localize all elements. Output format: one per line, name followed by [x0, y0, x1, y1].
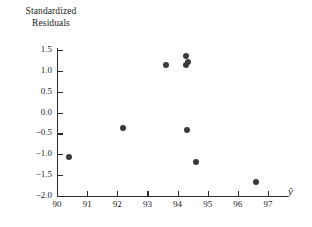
- y-tick-mark: [58, 113, 63, 114]
- y-axis-title-line1: Standardized: [26, 6, 77, 16]
- y-axis-title-line2: Residuals: [8, 18, 94, 30]
- x-tick-mark: [87, 191, 88, 196]
- x-tick-label: 90: [45, 199, 69, 209]
- y-tick-label: 0.5: [22, 86, 52, 96]
- x-tick-mark: [117, 191, 118, 196]
- y-tick-label: 1.0: [22, 65, 52, 75]
- y-tick-label: −0.5: [22, 127, 52, 137]
- data-point: [120, 125, 126, 131]
- data-point: [183, 62, 189, 68]
- x-axis-line: [57, 196, 288, 197]
- x-tick-mark: [268, 191, 269, 196]
- y-tick-label: 1.5: [22, 44, 52, 54]
- y-tick-mark: [58, 92, 63, 93]
- x-tick-mark: [208, 191, 209, 196]
- y-tick-label: 0.0: [22, 107, 52, 117]
- x-axis-title: ŷ: [288, 186, 293, 198]
- x-tick-label: 96: [226, 199, 250, 209]
- x-tick-mark: [147, 191, 148, 196]
- y-tick-label: −1.5: [22, 169, 52, 179]
- x-tick-label: 97: [256, 199, 280, 209]
- y-axis-title: Standardized Residuals: [8, 6, 94, 29]
- x-tick-mark: [238, 191, 239, 196]
- y-tick-mark: [58, 175, 63, 176]
- x-tick-mark: [178, 191, 179, 196]
- y-tick-mark: [58, 154, 63, 155]
- data-point: [184, 127, 190, 133]
- data-point: [163, 62, 169, 68]
- scatter-plot: Standardized Residuals ŷ 1.51.00.50.0−0.…: [0, 0, 312, 227]
- data-point: [66, 154, 72, 160]
- data-point: [183, 53, 189, 59]
- y-tick-mark: [58, 71, 63, 72]
- x-tick-label: 93: [135, 199, 159, 209]
- x-tick-label: 91: [75, 199, 99, 209]
- y-tick-mark: [58, 133, 63, 134]
- data-point: [253, 179, 259, 185]
- y-tick-label: −1.0: [22, 148, 52, 158]
- y-tick-mark: [58, 196, 63, 197]
- data-point: [193, 159, 199, 165]
- x-tick-label: 92: [105, 199, 129, 209]
- y-tick-mark: [58, 50, 63, 51]
- x-tick-label: 94: [166, 199, 190, 209]
- x-tick-label: 95: [196, 199, 220, 209]
